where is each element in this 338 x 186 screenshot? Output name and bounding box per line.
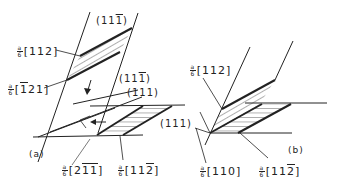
burgers-vector-b-110: a6[110] bbox=[200, 165, 241, 178]
panel-label-b: (b) bbox=[288, 146, 304, 155]
plane-label-11-1-top: (111) bbox=[96, 16, 128, 26]
burgers-vector-a-112bar: a6[112] bbox=[118, 164, 159, 177]
plane-label-11-1-mid: (111) bbox=[119, 74, 151, 84]
panel-b-drawing bbox=[195, 41, 327, 163]
panel-a-drawing bbox=[33, 12, 185, 165]
burgers-vector-a-211bar: a6[211] bbox=[62, 164, 103, 177]
burgers-vector-b-112: a6[112] bbox=[190, 64, 231, 77]
plane-label-111-right: (111) bbox=[160, 119, 192, 129]
burgers-vector-b-112bar: a6[112] bbox=[259, 165, 300, 178]
plane-label-111-mid: (111) bbox=[127, 88, 159, 98]
burgers-vector-a-112: a6[112] bbox=[17, 45, 58, 58]
plane-111-bottom-edge bbox=[33, 135, 143, 137]
burgers-vector-a-121bar: a6[121] bbox=[8, 83, 49, 96]
panel-label-a: (a) bbox=[29, 150, 45, 159]
dislocation-diagram bbox=[0, 0, 338, 186]
